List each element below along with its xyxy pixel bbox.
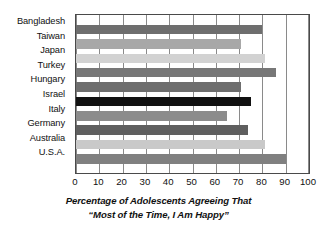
table-row <box>76 94 309 108</box>
x-tick-label-10: 10 <box>93 176 104 187</box>
table-row <box>76 80 309 94</box>
plot-wrapper: Bangladesh Taiwan Japan Turkey Hungary I… <box>0 0 317 180</box>
table-row <box>76 51 309 65</box>
bar-taiwan <box>76 39 241 48</box>
bar-hungary <box>76 82 241 91</box>
bar-italy <box>76 111 227 120</box>
x-tick-label-40: 40 <box>163 176 174 187</box>
x-tick-label-80: 80 <box>256 176 267 187</box>
bar-chart-figure: Bangladesh Taiwan Japan Turkey Hungary I… <box>0 0 317 230</box>
bar-bangladesh <box>76 25 262 34</box>
table-row <box>76 109 309 123</box>
y-axis-label-hungary: Hungary <box>0 72 70 87</box>
x-tick-label-100: 100 <box>300 176 316 187</box>
x-tick-label-90: 90 <box>279 176 290 187</box>
table-row <box>76 37 309 51</box>
y-axis-label-israel: Israel <box>0 87 70 102</box>
x-tick-label-20: 20 <box>116 176 127 187</box>
bar-turkey <box>76 68 276 77</box>
x-tick-label-70: 70 <box>233 176 244 187</box>
y-axis-label-australia: Australia <box>0 131 70 146</box>
bar-japan <box>76 54 265 63</box>
table-row <box>76 152 309 166</box>
x-tick-label-0: 0 <box>72 176 77 187</box>
table-row <box>76 66 309 80</box>
y-axis-label-japan: Japan <box>0 43 70 58</box>
x-tick-label-30: 30 <box>140 176 151 187</box>
bar-germany <box>76 125 248 134</box>
x-tick-label-50: 50 <box>186 176 197 187</box>
bar-australia <box>76 140 265 149</box>
caption-line-2: “Most of the Time, I Am Happy” <box>0 208 317 222</box>
y-axis-label-germany: Germany <box>0 116 70 131</box>
x-tick-label-60: 60 <box>209 176 220 187</box>
y-axis-label-italy: Italy <box>0 102 70 117</box>
table-row <box>76 137 309 151</box>
table-row <box>76 22 309 36</box>
x-axis-tick-labels: 0102030405060708090100 <box>75 176 310 190</box>
bar-u-s-a <box>76 154 286 163</box>
caption-line-1: Percentage of Adolescents Agreeing That <box>0 194 317 208</box>
bars-container <box>76 15 309 173</box>
y-axis-label-bangladesh: Bangladesh <box>0 14 70 29</box>
bar-israel <box>76 97 251 106</box>
y-axis-label-turkey: Turkey <box>0 58 70 73</box>
y-axis-label-taiwan: Taiwan <box>0 29 70 44</box>
y-axis-label-usa: U.S.A. <box>0 145 70 160</box>
chart-caption: Percentage of Adolescents Agreeing That … <box>0 194 317 221</box>
y-axis-category-labels: Bangladesh Taiwan Japan Turkey Hungary I… <box>0 14 70 174</box>
table-row <box>76 123 309 137</box>
plot-area <box>75 14 310 174</box>
